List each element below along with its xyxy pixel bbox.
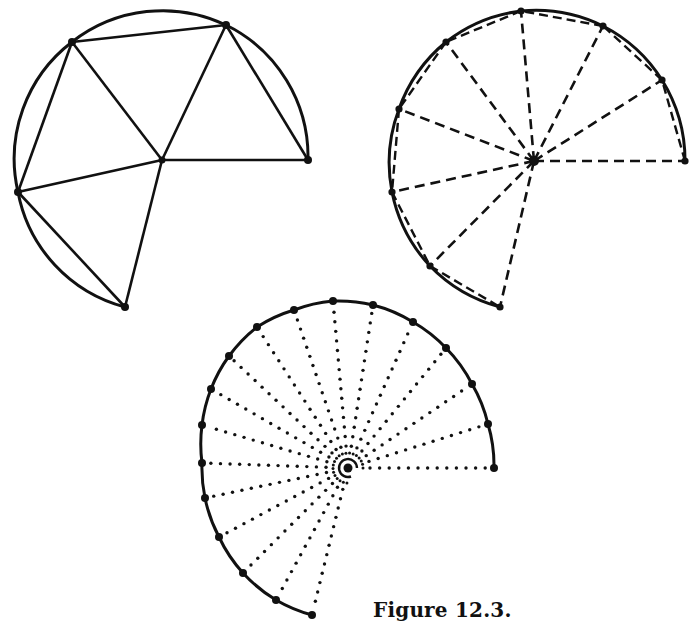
spoke-dot [316, 457, 319, 460]
spoke-dot [316, 590, 319, 593]
spoke-dot [313, 528, 316, 531]
center-dot [344, 464, 353, 473]
spoke-dot [314, 416, 317, 419]
spoke-dot [484, 466, 487, 469]
spoke-dot [252, 438, 255, 441]
spiral-polygon-diagrams [0, 0, 698, 629]
spoke-dot [242, 436, 245, 439]
vertex-dot [442, 38, 449, 45]
spoke-dot [324, 400, 327, 403]
spoke-dot [369, 321, 372, 324]
spoke-dot [319, 424, 322, 427]
spoke-dot [340, 397, 343, 400]
vertex-dot [222, 21, 230, 29]
spoke-dot [433, 360, 436, 363]
spoke-dot [367, 460, 370, 463]
spoke-dot [439, 353, 442, 356]
spoke-dot [228, 462, 231, 465]
spoke-dot [386, 454, 389, 457]
vertex-dot [253, 323, 261, 331]
spoke-dot [397, 405, 400, 408]
spoke-dot [403, 397, 406, 400]
spoke-dot [295, 418, 298, 421]
spoke-dot [334, 330, 337, 333]
spoke-dot [267, 392, 270, 395]
spoke-dot [394, 359, 397, 362]
spoke-dot [325, 460, 328, 463]
spoke-dot [288, 412, 291, 415]
spoke-dot [334, 516, 337, 519]
spoke-dot [380, 443, 383, 446]
spoke-dot [261, 335, 264, 338]
spoke-dot [333, 320, 336, 323]
spoke-dot [367, 420, 370, 423]
spoke-dot [371, 411, 374, 414]
vertex-dot [239, 569, 247, 577]
spoke-dot [293, 383, 296, 386]
spoke-dot [308, 407, 311, 410]
dashed-spoke [534, 26, 603, 161]
spoke-dot [364, 350, 367, 353]
spoke-dot [311, 364, 314, 367]
spoke-dot [474, 466, 477, 469]
vertex-dot [207, 385, 215, 393]
spoke-dot [359, 437, 362, 440]
vertex-dot [308, 611, 316, 619]
spoke-dot [310, 486, 313, 489]
spoke-dot [268, 508, 271, 511]
vertex-dot [272, 596, 280, 604]
spoke-dot [327, 544, 330, 547]
spoke-dot [297, 477, 300, 480]
spoke-dot [309, 431, 312, 434]
spoke-dot [450, 434, 453, 437]
spoke-dot [416, 466, 419, 469]
spoke-dot [240, 489, 243, 492]
spoke-dot [277, 427, 280, 430]
spoke-dot [335, 339, 338, 342]
solid-triangulated-polygon [14, 11, 312, 311]
spoke-dot [361, 369, 364, 372]
spoke-dot [287, 479, 290, 482]
spoke-dot [366, 442, 369, 445]
spoke-dot [314, 600, 317, 603]
vertex-dot [201, 494, 209, 502]
ring-dot [332, 467, 335, 470]
center-burst [529, 156, 539, 166]
spoke-dot [334, 448, 337, 451]
spoke-dot [331, 482, 334, 485]
spoke-dot [358, 388, 361, 391]
spoke-dot [431, 440, 434, 443]
spoke-dot [317, 382, 320, 385]
vertex-dot [215, 533, 223, 541]
spoke-dot [388, 438, 391, 441]
chord [18, 42, 72, 192]
spoke-dot [402, 341, 405, 344]
spoke-dot [282, 367, 285, 370]
spoke-dot [288, 375, 291, 378]
spoke-dot [337, 358, 340, 361]
spoke-dot [270, 543, 273, 546]
spoke-dot [327, 455, 330, 458]
spoke-dot [261, 417, 264, 420]
ring-dot [338, 454, 341, 457]
spoke-dot [299, 553, 302, 556]
spoke-dot [441, 437, 444, 440]
spoke-dot [330, 418, 333, 421]
spoke-dot [270, 444, 273, 447]
spoke-dot [281, 405, 284, 408]
vertex-dot [198, 459, 206, 467]
spoke-dot [251, 517, 254, 520]
spoke-dot [452, 395, 455, 398]
spoke-dot [339, 387, 342, 390]
spoke-dot [285, 499, 288, 502]
vertex-dot [409, 318, 417, 326]
spoke-dot [286, 431, 289, 434]
spoke-dot [385, 420, 388, 423]
spoke-dot [436, 466, 439, 469]
spoke-dot [285, 578, 288, 581]
spoke-dot [324, 489, 327, 492]
vertex-dot [426, 262, 433, 269]
spoke-dot [274, 399, 277, 402]
dashed-spoke [500, 161, 534, 307]
spoke-dot [267, 464, 270, 467]
